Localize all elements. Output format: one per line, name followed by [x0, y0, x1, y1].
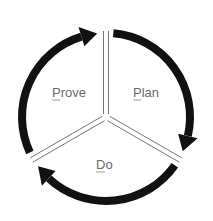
divider-line: [107, 121, 179, 163]
divider-line: [30, 116, 102, 157]
divider-line: [110, 116, 182, 157]
stage-prove: Prove: [52, 85, 86, 100]
stage-label-prove: Prove: [52, 85, 86, 100]
stage-do: Do: [96, 157, 113, 172]
arrowhead-icon: [178, 134, 197, 152]
stage-label-plan: Plan: [133, 85, 159, 100]
cycle-diagram: Plan Do Prove: [0, 0, 213, 221]
stage-plan: Plan: [133, 85, 159, 100]
stage-label-do: Do: [96, 157, 113, 172]
cycle-arrows: [22, 27, 198, 201]
divider-line: [33, 121, 105, 163]
